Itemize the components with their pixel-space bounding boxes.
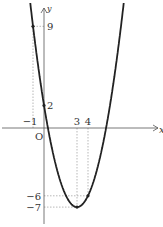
tick-label: 3 [74, 116, 80, 127]
tick-labels: −13492−6−7 [23, 21, 92, 213]
origin-label: O [35, 131, 43, 142]
tick-label: 2 [47, 100, 53, 111]
data-point [42, 104, 45, 107]
data-point [86, 194, 89, 197]
parabola-chart: x y O −13492−6−7 [0, 0, 163, 227]
tick-label: 9 [47, 21, 53, 32]
data-point [31, 25, 34, 28]
tick-label: −1 [23, 116, 38, 127]
y-axis-label: y [46, 4, 52, 13]
x-axis-label: x [159, 124, 163, 135]
tick-label: −7 [26, 202, 41, 213]
data-point [75, 206, 78, 209]
tick-label: −6 [26, 191, 41, 202]
tick-label: 4 [85, 116, 91, 127]
